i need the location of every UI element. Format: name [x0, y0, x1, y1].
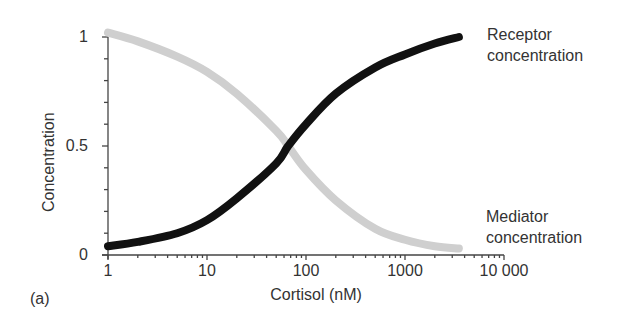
x-tick-1: 1 — [104, 262, 113, 280]
panel-label: (a) — [30, 290, 50, 308]
x-tick-100: 100 — [293, 262, 320, 280]
y-axis-label: Concentration — [40, 112, 58, 212]
mediator-legend: Mediator concentration — [486, 206, 582, 248]
x-tick-10: 10 — [198, 262, 216, 280]
y-tick-0: 0 — [48, 246, 88, 264]
mediator-curve — [108, 33, 459, 249]
x-axis-label: Cortisol (nM) — [270, 286, 362, 304]
x-tick-1000: 1000 — [387, 262, 423, 280]
mediator-legend-line2: concentration — [486, 227, 582, 248]
receptor-legend-line1: Receptor — [487, 24, 583, 45]
receptor-legend-line2: concentration — [487, 45, 583, 66]
y-tick-1: 1 — [48, 28, 88, 46]
receptor-legend: Receptor concentration — [487, 24, 583, 66]
x-tick-10000: 10 000 — [480, 262, 529, 280]
mediator-legend-line1: Mediator — [486, 206, 582, 227]
